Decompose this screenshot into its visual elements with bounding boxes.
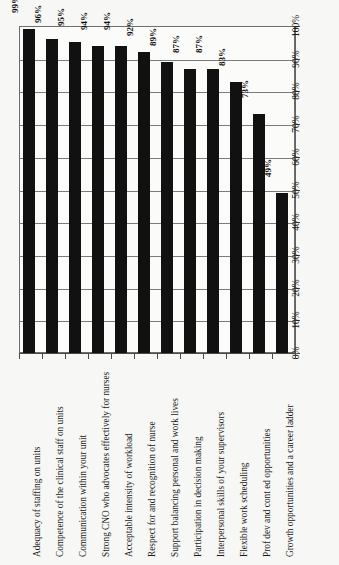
bar-slot: 92% bbox=[135, 26, 158, 353]
bar bbox=[23, 29, 35, 353]
bar-slot: 96% bbox=[43, 26, 66, 353]
category-label: Participation in decision making bbox=[184, 361, 198, 557]
chart-page: 99%96%95%94%94%92%89%87%87%83%73%49% 0%1… bbox=[0, 0, 339, 565]
value-axis-tick-label: 60% bbox=[307, 142, 321, 172]
bar bbox=[184, 69, 196, 353]
category-axis-tick bbox=[19, 353, 20, 359]
value-axis-tick-label: 20% bbox=[307, 273, 321, 303]
category-axis-tick bbox=[272, 353, 273, 359]
bar-value-label: 73% bbox=[253, 100, 265, 112]
category-label: Adequacy of staffing on units bbox=[23, 361, 37, 557]
bar-slot: 94% bbox=[89, 26, 112, 353]
category-label: Competence of the clinical staff on unit… bbox=[46, 361, 60, 557]
bar-slot: 99% bbox=[20, 26, 43, 353]
bar bbox=[207, 69, 219, 353]
category-label: Interpersonal skills of your supervisors bbox=[207, 361, 221, 557]
value-axis-tick-label: 100% bbox=[307, 11, 321, 41]
bar bbox=[161, 62, 173, 353]
value-axis-tick-label: 0% bbox=[307, 338, 321, 368]
bar bbox=[276, 193, 288, 353]
bar bbox=[230, 82, 242, 353]
value-axis-tick-label: 50% bbox=[307, 175, 321, 205]
category-label: Support balancing personal and work live… bbox=[161, 361, 175, 557]
category-axis-tick bbox=[88, 353, 89, 359]
bar-slot: 94% bbox=[112, 26, 135, 353]
value-axis-tick-label: 10% bbox=[307, 305, 321, 335]
value-axis-tick-label: 30% bbox=[307, 240, 321, 270]
bar bbox=[92, 46, 104, 353]
category-axis-tick bbox=[226, 353, 227, 359]
category-label: Respect for and recognition of nurse bbox=[138, 361, 152, 557]
bar bbox=[46, 39, 58, 353]
value-axis-tick-label: 40% bbox=[307, 207, 321, 237]
category-axis bbox=[19, 353, 295, 361]
value-axis-tick-label: 80% bbox=[307, 76, 321, 106]
value-axis: 0%10%20%30%40%50%60%70%80%90%100% bbox=[295, 26, 339, 353]
bar-slot: 89% bbox=[158, 26, 181, 353]
category-label: Acceptable intensity of workload bbox=[115, 361, 129, 557]
bar bbox=[115, 46, 127, 353]
category-axis-tick bbox=[111, 353, 112, 359]
category-label: Flexible work scheduling bbox=[230, 361, 244, 557]
category-axis-tick bbox=[180, 353, 181, 359]
category-axis-tick bbox=[65, 353, 66, 359]
bar bbox=[69, 42, 81, 353]
category-label: Prof dev and cont ed opportunities bbox=[253, 361, 267, 557]
bar bbox=[138, 52, 150, 353]
value-axis-tick-label: 70% bbox=[307, 109, 321, 139]
bar-slot: 87% bbox=[181, 26, 204, 353]
value-axis-tick-label: 90% bbox=[307, 44, 321, 74]
category-axis-tick bbox=[134, 353, 135, 359]
category-axis-tick bbox=[249, 353, 250, 359]
category-axis-labels: Adequacy of staffing on unitsCompetence … bbox=[19, 361, 295, 561]
category-label: Strong CNO who advocates effectively for… bbox=[92, 361, 106, 557]
category-label: Growth opportunities and a career ladder bbox=[276, 361, 290, 557]
category-label: Communication within your unit bbox=[69, 361, 83, 557]
bar-slot: 95% bbox=[66, 26, 89, 353]
bar-value-label: 49% bbox=[276, 179, 288, 191]
category-axis-tick bbox=[295, 353, 296, 359]
category-axis-tick bbox=[42, 353, 43, 359]
category-axis-tick bbox=[203, 353, 204, 359]
bars-layer: 99%96%95%94%94%92%89%87%87%83%73%49% bbox=[19, 26, 295, 353]
category-axis-tick bbox=[157, 353, 158, 359]
